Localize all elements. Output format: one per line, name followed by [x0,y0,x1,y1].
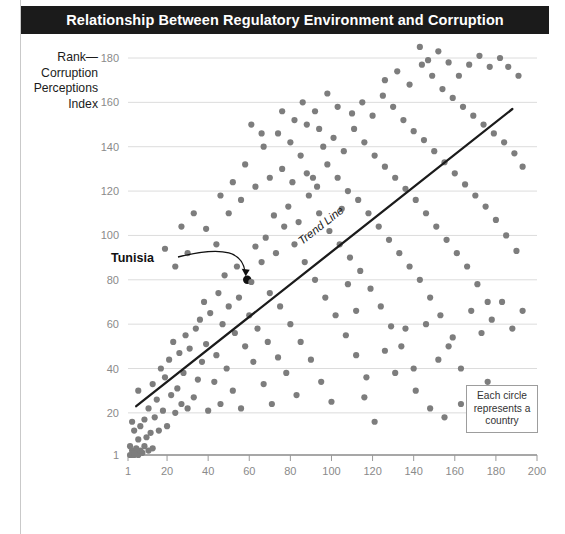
svg-text:120: 120 [101,185,119,197]
svg-text:120: 120 [363,465,381,477]
svg-text:100: 100 [322,465,340,477]
svg-text:160: 160 [446,465,464,477]
svg-text:1: 1 [125,465,131,477]
legend-note-box: Each circle represents a country [466,385,538,433]
svg-text:100: 100 [101,229,119,241]
scatter-svg: 1204060801001201401601801204060801001201… [0,0,565,534]
svg-text:40: 40 [202,465,214,477]
axis-ticks [128,455,537,461]
svg-text:20: 20 [107,407,119,419]
svg-text:200: 200 [528,465,546,477]
svg-text:Trend Line: Trend Line [296,204,346,247]
svg-text:160: 160 [101,96,119,108]
annotation-tunisia: Tunisia [111,251,154,265]
plot-area: 1204060801001201401601801204060801001201… [0,0,565,534]
svg-text:20: 20 [161,465,173,477]
svg-text:60: 60 [107,318,119,330]
figure-root: Relationship Between Regulatory Environm… [0,0,565,534]
svg-text:140: 140 [101,141,119,153]
svg-text:60: 60 [243,465,255,477]
svg-text:1: 1 [113,449,119,461]
tunisia-callout-arrow [178,251,250,276]
svg-text:180: 180 [101,52,119,64]
trend-line-label: Trend Line [296,204,346,247]
svg-text:140: 140 [405,465,423,477]
svg-text:40: 40 [107,363,119,375]
legend-note-text: Each circle represents a country [467,390,537,427]
trend-line [136,109,512,406]
svg-text:80: 80 [284,465,296,477]
svg-text:180: 180 [487,465,505,477]
svg-text:80: 80 [107,274,119,286]
